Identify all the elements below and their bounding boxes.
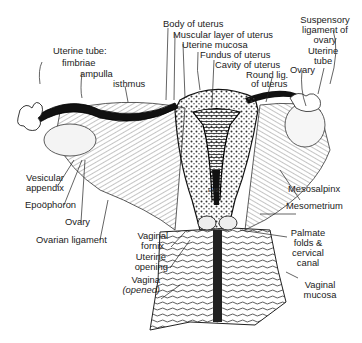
label-uterine-tube-heading: Uterine tube: [53,46,107,56]
label-suspensory-3: ovary [292,35,358,45]
label-mesometrium: Mesometrium [286,201,343,211]
label-ovary-left: Ovary [65,217,90,227]
label-mesosalpinx: Mesosalpinx [288,184,340,194]
label-palmate-4: canal [286,258,330,268]
fimbriae-left [18,102,43,130]
label-round-lig-2: of uterus [251,79,287,89]
label-epoophoron: Epoöphoron [25,200,76,210]
label-ovary-right: Ovary [290,65,315,75]
label-fimbriae: fimbriae [62,58,95,68]
label-ovarian-ligament: Ovarian ligament [36,235,107,245]
label-uterine-opening-2: opening [120,262,168,272]
label-vesicular-2: appendix [20,183,64,193]
label-vaginal-mucosa-2: mucosa [300,290,340,300]
ovary-left [44,124,96,156]
label-isthmus: isthmus [113,79,145,89]
vagina-midline [213,230,222,322]
anatomy-figure: EMS Uterine tube: fimbriae ampulla isthm… [0,0,362,343]
label-body-of-uterus: Body of uterus [163,19,223,29]
label-vaginal-fornix-2: fornix [120,241,164,251]
artist-signature: EMS [208,187,220,193]
label-ampulla: ampulla [80,69,113,79]
label-vagina-2: (opened) [118,285,160,295]
